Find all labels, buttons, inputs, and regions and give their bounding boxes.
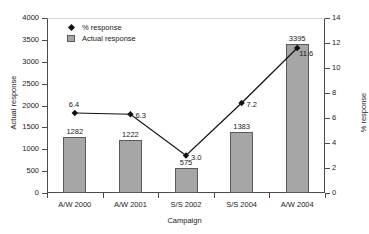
x-axis-tick-mark xyxy=(214,193,215,198)
y-left-tick-label: 1000 xyxy=(0,145,39,153)
y-left-tick-label: 3500 xyxy=(0,36,39,44)
x-axis-category-label: S/S 2004 xyxy=(214,200,270,209)
y-right-tick-mark xyxy=(325,168,330,169)
y-right-tick-label: 6 xyxy=(332,114,362,122)
y-left-tick-mark xyxy=(42,127,47,128)
y-right-tick-label: 0 xyxy=(332,189,362,197)
y-left-tick-label: 0 xyxy=(0,189,39,197)
y-right-tick-mark xyxy=(325,43,330,44)
y-left-tick-mark xyxy=(42,18,47,19)
x-axis-tick-mark xyxy=(47,193,48,198)
y-right-tick-label: 10 xyxy=(332,64,362,72)
legend-item-actual-response: Actual response xyxy=(63,33,136,44)
bar xyxy=(175,168,198,193)
chart-container: Actual response % response Campaign 0500… xyxy=(0,0,369,234)
line-point-label: 6.3 xyxy=(135,111,145,120)
y-right-tick-label: 8 xyxy=(332,89,362,97)
y-right-tick-mark xyxy=(325,68,330,69)
legend-label-actual-response: Actual response xyxy=(82,34,136,43)
x-axis-tick-mark xyxy=(103,193,104,198)
bar xyxy=(63,137,86,193)
line-point-label: 11.6 xyxy=(299,49,313,58)
line-point-label: 3.0 xyxy=(191,153,201,162)
bar-swatch-icon xyxy=(63,35,79,42)
y-left-tick-mark xyxy=(42,84,47,85)
y-left-tick-label: 2500 xyxy=(0,80,39,88)
legend-item-percent-response: % response xyxy=(63,22,136,33)
y-right-tick-label: 2 xyxy=(332,164,362,172)
y-right-tick-mark xyxy=(325,93,330,94)
x-axis-category-label: A/W 2001 xyxy=(103,200,159,209)
y-left-tick-mark xyxy=(42,171,47,172)
bar-value-label: 1222 xyxy=(108,130,152,139)
bar xyxy=(119,140,142,193)
bar-value-label: 3395 xyxy=(275,34,319,43)
y-left-tick-mark xyxy=(42,40,47,41)
y-left-tick-label: 500 xyxy=(0,167,39,175)
bar xyxy=(230,132,253,193)
legend-label-percent-response: % response xyxy=(82,23,122,32)
line-point-label: 6.4 xyxy=(69,100,79,109)
y-left-tick-mark xyxy=(42,62,47,63)
x-axis-tick-mark xyxy=(269,193,270,198)
y-left-tick-label: 2000 xyxy=(0,102,39,110)
legend: % response Actual response xyxy=(63,22,136,44)
y-right-tick-label: 4 xyxy=(332,139,362,147)
x-axis-category-label: A/W 2004 xyxy=(269,200,325,209)
y-right-tick-mark xyxy=(325,18,330,19)
x-axis-tick-mark xyxy=(325,193,326,198)
bar-value-label: 1383 xyxy=(220,122,264,131)
x-axis-title: Campaign xyxy=(0,216,369,225)
y-right-tick-label: 14 xyxy=(332,14,362,22)
y-left-tick-mark xyxy=(42,149,47,150)
y-right-tick-mark xyxy=(325,118,330,119)
y-right-tick-mark xyxy=(325,143,330,144)
bar xyxy=(286,44,309,193)
y-right-tick-label: 12 xyxy=(332,39,362,47)
y-left-tick-label: 4000 xyxy=(0,14,39,22)
x-axis-category-label: A/W 2000 xyxy=(47,200,103,209)
bar-value-label: 1282 xyxy=(53,127,97,136)
y-left-tick-label: 3000 xyxy=(0,58,39,66)
x-axis-category-label: S/S 2002 xyxy=(158,200,214,209)
diamond-marker-icon xyxy=(63,25,79,30)
line-point-label: 7.2 xyxy=(247,100,257,109)
x-axis-tick-mark xyxy=(158,193,159,198)
y-left-tick-mark xyxy=(42,106,47,107)
y-left-tick-label: 1500 xyxy=(0,123,39,131)
